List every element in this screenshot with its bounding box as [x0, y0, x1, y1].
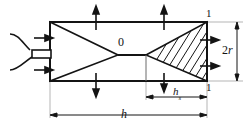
- feed-hose-lower: [10, 57, 32, 70]
- left-triangle: [50, 22, 118, 81]
- dimension-h: [50, 113, 207, 117]
- label-radius-dimension: 2r: [222, 44, 233, 56]
- inlet-duct: [32, 50, 51, 58]
- technical-figure: 0 2r h hs 1 1: [0, 0, 250, 131]
- label-origin-point: 0: [118, 36, 124, 48]
- bottom-flow-arrow-1: [93, 73, 99, 97]
- label-radius-symbol: r: [228, 43, 233, 57]
- label-partial-length: hs: [173, 86, 181, 100]
- label-partial-length-subscript: s: [179, 94, 182, 101]
- label-total-length: h: [121, 108, 127, 120]
- label-section-mark-top: 1: [206, 8, 212, 19]
- label-section-mark-bottom: 1: [206, 82, 212, 93]
- label-partial-length-base: h: [173, 85, 179, 97]
- bottom-flow-arrow-2: [161, 73, 167, 92]
- dimension-2r: [235, 22, 239, 81]
- bottom-flow-arrows: [93, 73, 167, 97]
- top-flow-arrow-1: [93, 6, 99, 30]
- feed-hose-upper: [10, 34, 30, 50]
- top-flow-arrow-2: [161, 6, 167, 30]
- feed-hoses: [10, 34, 32, 70]
- top-flow-arrows: [93, 6, 167, 30]
- outlet-flow-arrow-lower: [200, 63, 219, 69]
